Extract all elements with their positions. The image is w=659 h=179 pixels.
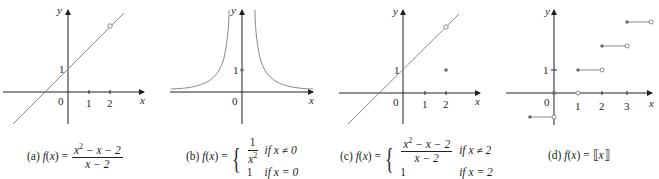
function-arg: x — [363, 150, 368, 162]
equals-sign: = — [583, 149, 590, 161]
x-axis-label: x — [474, 95, 480, 107]
open-circle — [625, 44, 629, 48]
numerator: x2 − x − 2 — [401, 137, 452, 152]
piecewise-cases: x2 − x − 2x − 2 if x ≠ 2 1 if x = 2 — [397, 136, 496, 179]
caption-label: (a) — [27, 150, 40, 162]
filled-dot-0-1 — [240, 68, 244, 72]
function-arg: x — [209, 150, 214, 162]
denominator: x2 — [248, 151, 258, 165]
numerator-rest: − x − 2 — [83, 144, 121, 156]
denominator: x − 2 — [401, 152, 452, 165]
case-condition: if x = 0 — [262, 166, 302, 179]
x-tick-label-2: 2 — [107, 97, 113, 109]
y-axis-label: y — [56, 4, 62, 16]
exponent: 2 — [253, 151, 257, 160]
filled-dot — [528, 115, 532, 119]
denominator: x − 2 — [72, 158, 123, 171]
x-tick-label-1: 1 — [422, 98, 428, 110]
case-value: 1 — [397, 166, 456, 179]
filled-dot-origin — [552, 91, 556, 95]
equals-sign: = — [221, 150, 228, 162]
case-row-2: 1 if x = 0 — [244, 166, 301, 179]
open-circle-hole — [444, 25, 448, 29]
x-tick-label-1: 1 — [575, 100, 581, 112]
function-name: f — [564, 149, 567, 161]
function-name: f — [356, 150, 359, 162]
graph-d: y x 0 1 2 3 1 — [506, 5, 654, 125]
piecewise-cases: 1x2 if x ≠ 0 1 if x = 0 — [244, 136, 301, 179]
x-tick-label-2: 2 — [599, 100, 605, 112]
case-condition: if x ≠ 2 — [456, 136, 496, 166]
left-brace: { — [385, 143, 394, 173]
case-row-1: x2 − x − 2x − 2 if x ≠ 2 — [397, 136, 496, 166]
y-axis-label: y — [544, 5, 550, 17]
origin-label: 0 — [544, 96, 550, 108]
filled-dot — [576, 68, 580, 72]
caption-a: (a) f(x) = x2 − x − 2 x − 2 — [27, 143, 124, 171]
x-tick-label-2: 2 — [443, 98, 449, 110]
caption-label: (c) — [340, 150, 353, 162]
case-condition: if x = 2 — [456, 166, 496, 179]
equals-sign: = — [375, 150, 382, 162]
filled-dot-2-1 — [444, 68, 448, 72]
origin-label: 0 — [232, 95, 238, 107]
y-tick-label-1: 1 — [394, 64, 400, 76]
numerator: 1 — [248, 137, 258, 151]
fraction: x2 − x − 2x − 2 — [401, 137, 452, 165]
x-tick-label-3: 3 — [624, 100, 630, 112]
graph-b: y x 0 1 — [170, 4, 314, 124]
caption-label: (d) — [548, 149, 561, 161]
function-name: f — [202, 150, 205, 162]
curve-right-branch — [255, 10, 313, 89]
floor-bracket-right: ⟧ — [604, 147, 610, 162]
curve-left-branch — [171, 10, 229, 89]
open-circle — [649, 20, 653, 24]
filled-dot — [625, 20, 629, 24]
y-axis-label: y — [230, 4, 236, 16]
function-arg: x — [50, 150, 55, 162]
x-axis-label: x — [139, 94, 145, 106]
y-tick-label-1: 1 — [59, 63, 65, 75]
open-circle — [600, 68, 604, 72]
caption-label: (b) — [186, 150, 199, 162]
caption-c: (c) f(x) = { x2 − x − 2x − 2 if x ≠ 2 1 … — [340, 136, 496, 179]
numerator-rest: − x − 2 — [412, 138, 450, 150]
graph-c: y x 0 1 2 1 — [339, 5, 480, 124]
open-circle — [576, 91, 580, 95]
left-brace: { — [231, 143, 240, 173]
case-value: 1 — [244, 166, 262, 179]
fraction: x2 − x − 2 x − 2 — [72, 143, 123, 171]
open-circle — [552, 115, 556, 119]
x-tick-label-1: 1 — [86, 97, 92, 109]
filled-dot — [600, 44, 604, 48]
graph-a: y x 0 1 2 1 — [3, 4, 145, 124]
origin-label: 0 — [58, 95, 64, 107]
case-row-1: 1x2 if x ≠ 0 — [244, 136, 301, 166]
y-tick-label-1: 1 — [543, 64, 549, 76]
equals-sign: = — [62, 150, 69, 162]
y-tick-label-1: 1 — [233, 64, 239, 76]
function-arg: x — [571, 149, 576, 161]
x-axis-label: x — [648, 97, 654, 109]
function-name: f — [43, 150, 46, 162]
open-circle-hole — [108, 24, 112, 28]
caption-d: (d) f(x) = ⟦x⟧ — [548, 148, 610, 162]
case-row-2: 1 if x = 2 — [397, 166, 496, 179]
caption-b: (b) f(x) = { 1x2 if x ≠ 0 1 if x = 0 — [186, 136, 301, 179]
y-axis-label: y — [392, 5, 398, 17]
numerator: x2 − x − 2 — [72, 143, 123, 158]
origin-label: 0 — [393, 96, 399, 108]
case-condition: if x ≠ 0 — [262, 136, 302, 166]
fraction: 1x2 — [248, 137, 258, 165]
x-axis-label: x — [308, 94, 314, 106]
